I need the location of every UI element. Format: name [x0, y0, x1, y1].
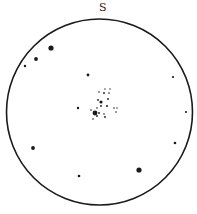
star-dot: [98, 112, 100, 114]
star-dot: [97, 99, 99, 101]
star-dot: [34, 57, 38, 61]
star-chart: [0, 0, 197, 214]
star-dot: [104, 116, 106, 118]
star-dot: [103, 113, 105, 115]
star-dot: [78, 175, 81, 178]
star-dot: [113, 107, 115, 109]
star-dot: [48, 45, 53, 50]
star-dot: [92, 118, 94, 120]
direction-label-south: S: [99, 1, 107, 14]
star-dot: [109, 88, 110, 89]
star-dot: [98, 91, 100, 93]
star-dot: [93, 111, 98, 116]
star-dot: [90, 109, 92, 111]
star-dot: [96, 107, 98, 109]
star-dot: [107, 98, 109, 100]
star-dot: [103, 92, 105, 94]
star-dot: [185, 111, 187, 113]
star-dot: [87, 74, 90, 77]
star-dot: [106, 105, 108, 107]
star-dot: [174, 142, 177, 145]
star-dot: [104, 88, 105, 89]
star-dot: [116, 107, 117, 108]
horizon-circle: [7, 19, 193, 205]
stars-group: [24, 45, 187, 177]
star-dot: [31, 146, 35, 150]
star-dot: [100, 105, 102, 107]
star-dot: [99, 100, 102, 103]
star-dot: [108, 92, 110, 94]
star-dot: [96, 115, 98, 117]
star-dot: [24, 65, 26, 67]
star-dot: [77, 107, 79, 109]
star-dot: [115, 111, 117, 113]
star-dot: [172, 76, 174, 78]
star-dot: [136, 167, 141, 172]
